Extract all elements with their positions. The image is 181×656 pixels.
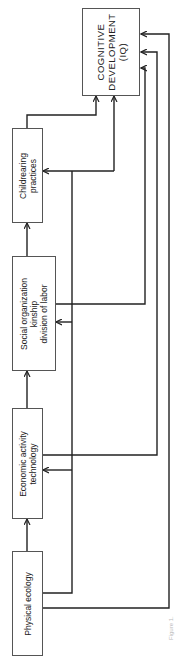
node-label-line: kinship [29, 278, 39, 350]
arrow-childrearing-to-cd [27, 96, 96, 128]
node-label-line: practices [28, 153, 38, 199]
node-economic-activity: Economic activity technology [12, 408, 43, 519]
arrow-economic-to-cd [42, 52, 157, 455]
node-label-line: Economic activity [18, 431, 28, 497]
node-cognitive-development: COGNITIVE DEVELOPMENT (IQ) [82, 8, 140, 96]
node-label-line: technology [28, 431, 38, 497]
node-label-line: Social organization [19, 278, 29, 350]
bus-physical-ecology [42, 171, 72, 593]
node-label-line: Physical ecology [23, 572, 33, 635]
arrow-social-to-cd [55, 68, 145, 304]
arrow-physical-to-cd [42, 34, 169, 608]
node-label-line: division of labor [39, 278, 49, 350]
node-label-line: DEVELOPMENT [106, 13, 117, 90]
node-label-line: Childrearing [18, 153, 28, 199]
node-childrearing: Childrearing practices [12, 128, 43, 223]
node-label-line: (IQ) [117, 13, 128, 90]
node-physical-ecology: Physical ecology [12, 551, 43, 656]
node-label-line: COGNITIVE [95, 13, 106, 90]
node-social-organization: Social organization kinship division of … [12, 256, 56, 371]
figure-caption: Figure 1. [168, 616, 174, 640]
